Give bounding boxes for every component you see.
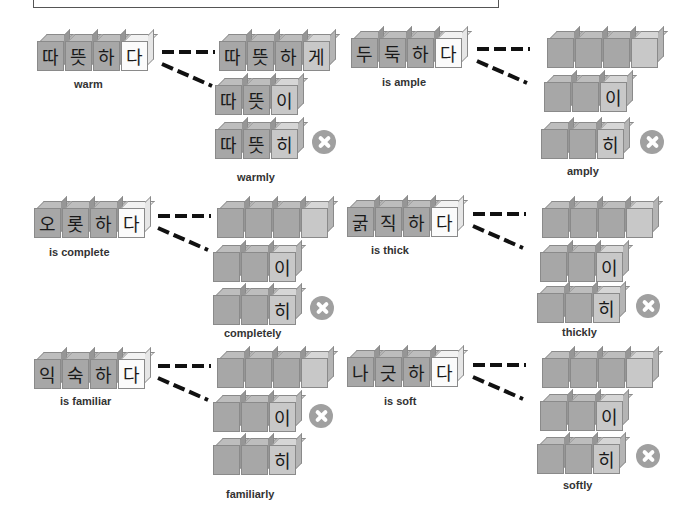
syllable-cube: 뜻 <box>65 34 93 72</box>
syllable-cube <box>541 122 569 160</box>
syllable-cube <box>540 394 568 432</box>
syllable-cube <box>626 201 654 239</box>
syllable-cube: 다 <box>435 31 463 69</box>
syllable-cube: 오 <box>34 201 62 239</box>
syllable-cube <box>565 286 593 324</box>
dashed-connector <box>156 212 216 252</box>
syllable-cube: 이 <box>600 75 628 113</box>
syllable-cube <box>241 395 269 433</box>
source-label: is thick <box>371 244 409 256</box>
syllable-cube <box>301 351 329 389</box>
syllable-cube <box>568 394 596 432</box>
form-row-3: 히 <box>541 122 625 160</box>
incorrect-x-icon <box>309 404 333 428</box>
ending-cube: 다 <box>121 34 149 72</box>
form-row-1 <box>217 201 329 239</box>
form-row-3: 따 뜻 히 <box>215 122 299 160</box>
syllable-cube: 직 <box>375 200 403 238</box>
syllable-cube <box>537 286 565 324</box>
form-row-2: 이 <box>213 245 297 283</box>
form-row-2: 따 뜻 이 <box>215 78 299 116</box>
syllable-cube: 이 <box>596 394 624 432</box>
syllable-cube <box>213 245 241 283</box>
syllable-cube <box>631 31 659 69</box>
syllable-cube: 하 <box>403 200 431 238</box>
syllable-cube <box>540 245 568 283</box>
source-word: 굵 직 하 다 <box>347 200 459 238</box>
syllable-cube: 하 <box>275 34 303 72</box>
syllable-cube <box>570 351 598 389</box>
syllable-cube <box>217 201 245 239</box>
syllable-cube: 하 <box>90 352 118 390</box>
source-label: is complete <box>49 246 110 258</box>
dashed-connector <box>475 45 535 85</box>
form-row-3: 히 <box>537 437 621 475</box>
syllable-cube: 두 <box>351 31 379 69</box>
form-row-2: 이 <box>540 245 624 283</box>
syllable-cube <box>245 351 273 389</box>
syllable-cube: 긋 <box>375 350 403 388</box>
syllable-cube: 히 <box>593 286 621 324</box>
form-row-1 <box>542 201 654 239</box>
syllable-cube <box>565 437 593 475</box>
syllable-cube: 따 <box>215 122 243 160</box>
result-label: amply <box>567 165 599 177</box>
syllable-cube <box>626 351 654 389</box>
syllable-cube: 굵 <box>347 200 375 238</box>
source-label: is familiar <box>60 395 111 407</box>
syllable-cube <box>213 288 241 326</box>
syllable-cube: 하 <box>93 34 121 72</box>
syllable-cube <box>245 201 273 239</box>
syllable-cube: 따 <box>37 34 65 72</box>
syllable-cube <box>241 438 269 476</box>
result-label: softly <box>563 479 592 491</box>
syllable-cube <box>544 75 572 113</box>
form-row-2: 이 <box>540 394 624 432</box>
syllable-cube <box>542 201 570 239</box>
incorrect-x-icon <box>640 130 664 154</box>
source-label: is soft <box>384 395 416 407</box>
syllable-cube <box>598 351 626 389</box>
incorrect-x-icon <box>312 130 336 154</box>
syllable-cube: 따 <box>215 78 243 116</box>
syllable-cube: 나 <box>347 350 375 388</box>
form-row-1 <box>547 31 659 69</box>
top-caption-box <box>33 0 499 8</box>
form-row-2: 이 <box>213 395 297 433</box>
syllable-cube: 게 <box>303 34 331 72</box>
syllable-cube <box>598 201 626 239</box>
syllable-cube: 히 <box>269 438 297 476</box>
syllable-cube: 다 <box>118 352 146 390</box>
syllable-cube <box>217 351 245 389</box>
syllable-cube <box>213 395 241 433</box>
syllable-cube: 이 <box>271 78 299 116</box>
syllable-cube: 익 <box>34 352 62 390</box>
syllable-cube: 뜻 <box>247 34 275 72</box>
form-row-3: 히 <box>537 286 621 324</box>
syllable-cube: 뜻 <box>243 122 271 160</box>
source-word: 오 롯 하 다 <box>34 201 146 239</box>
syllable-cube: 다 <box>431 200 459 238</box>
syllable-cube: 다 <box>431 350 459 388</box>
syllable-cube: 히 <box>271 122 299 160</box>
syllable-cube <box>568 245 596 283</box>
form-row-1 <box>542 351 654 389</box>
source-word: 따 뜻 하 다 <box>37 34 149 72</box>
syllable-cube: 하 <box>407 31 435 69</box>
syllable-cube <box>537 437 565 475</box>
result-label: thickly <box>562 326 597 338</box>
syllable-cube: 롯 <box>62 201 90 239</box>
syllable-cube <box>301 201 329 239</box>
syllable-cube <box>603 31 631 69</box>
syllable-cube: 이 <box>269 395 297 433</box>
syllable-cube: 둑 <box>379 31 407 69</box>
syllable-cube: 이 <box>596 245 624 283</box>
syllable-cube <box>569 122 597 160</box>
source-word: 익 숙 하 다 <box>34 352 146 390</box>
syllable-cube: 히 <box>593 437 621 475</box>
syllable-cube: 히 <box>597 122 625 160</box>
syllable-cube: 하 <box>403 350 431 388</box>
source-label: warm <box>74 78 103 90</box>
incorrect-x-icon <box>310 296 334 320</box>
syllable-cube <box>273 201 301 239</box>
